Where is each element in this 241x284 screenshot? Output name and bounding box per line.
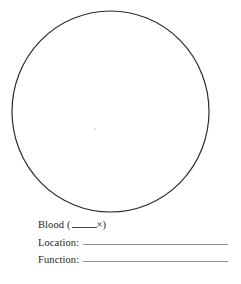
field-function-label: Function: bbox=[38, 253, 79, 266]
center-speck bbox=[94, 128, 96, 130]
field-blood: Blood ( × ) bbox=[38, 218, 233, 234]
field-location-input[interactable] bbox=[83, 234, 228, 245]
field-function-input[interactable] bbox=[83, 251, 228, 262]
specimen-drawing-area[interactable] bbox=[0, 0, 241, 218]
field-blood-blank[interactable] bbox=[72, 218, 97, 228]
worksheet-page: Blood ( × ) Location: Function: bbox=[0, 0, 241, 284]
field-blood-label: Blood ( bbox=[38, 218, 71, 231]
field-blood-close-paren: ) bbox=[102, 219, 106, 230]
circle-outline-icon bbox=[0, 0, 241, 218]
field-function: Function: bbox=[38, 252, 233, 268]
form-fields: Blood ( × ) Location: Function: bbox=[0, 218, 241, 284]
field-location-label: Location: bbox=[38, 236, 79, 249]
field-location: Location: bbox=[38, 235, 233, 251]
